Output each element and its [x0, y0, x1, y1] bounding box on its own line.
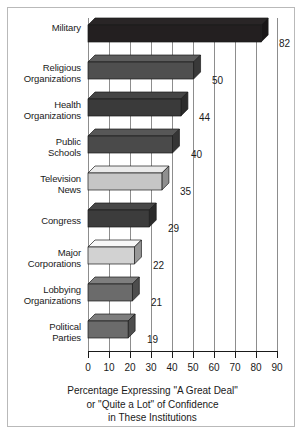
category-label-congress: Congress — [41, 215, 81, 226]
bar-front-face — [88, 99, 181, 116]
x-axis-tick — [193, 352, 194, 358]
value-label-public-schools: 40 — [191, 150, 202, 160]
bar-3d — [88, 18, 268, 42]
value-label-health: 44 — [199, 113, 210, 123]
x-axis-tick — [214, 352, 215, 358]
bar-3d — [88, 55, 201, 79]
category-label-political-parties: Political Parties — [49, 321, 81, 343]
value-label-television-news: 35 — [180, 187, 191, 197]
bar-top-face — [88, 55, 201, 62]
x-axis-tick — [277, 352, 278, 358]
bar-front-face — [88, 136, 172, 153]
x-tick-label-10: 10 — [99, 363, 119, 373]
bar-top-face — [88, 240, 141, 247]
chart-figure: Military Religious Organizations Health … — [0, 0, 305, 441]
category-label-public-schools: Public Schools — [48, 136, 81, 158]
category-label-military: Military — [52, 22, 81, 33]
x-tick-label-70: 70 — [225, 363, 245, 373]
x-tick-label-40: 40 — [162, 363, 182, 373]
x-axis-title: Percentage Expressing "A Great Deal" or … — [7, 384, 298, 425]
bar-3d — [88, 240, 141, 264]
bar-top-face — [88, 129, 179, 136]
bar-front-face — [88, 247, 134, 264]
bar-top-face — [88, 18, 268, 25]
x-tick-label-90: 90 — [267, 363, 287, 373]
bar-3d — [88, 92, 188, 116]
category-label-major-corporations: Major Corporations — [28, 247, 81, 269]
bar-top-face — [88, 203, 156, 210]
x-axis-tick — [151, 352, 152, 358]
x-tick-label-30: 30 — [141, 363, 161, 373]
bar-top-face — [88, 92, 188, 99]
x-tick-label-20: 20 — [120, 363, 140, 373]
value-label-lobbying: 21 — [151, 298, 162, 308]
category-label-lobbying: Lobbying Organizations — [24, 284, 81, 306]
bar-3d — [88, 277, 139, 301]
category-label-health: Health Organizations — [24, 99, 81, 121]
x-axis-tick — [88, 352, 89, 358]
x-tick-label-0: 0 — [78, 363, 98, 373]
value-label-military: 82 — [279, 39, 290, 49]
bar-top-face — [88, 166, 169, 173]
value-label-political-parties: 19 — [147, 335, 158, 345]
bar-top-face — [88, 277, 139, 284]
plot-area: Military Religious Organizations Health … — [0, 0, 305, 441]
x-axis-tick — [256, 352, 257, 358]
value-label-religious: 50 — [212, 76, 223, 86]
category-label-religious: Religious Organizations — [24, 62, 81, 84]
bar-3d — [88, 203, 156, 227]
bar-front-face — [88, 25, 261, 42]
x-axis-tick — [130, 352, 131, 358]
bar-3d — [88, 314, 135, 338]
bar-front-face — [88, 173, 162, 190]
value-label-congress: 29 — [168, 224, 179, 234]
bar-3d — [88, 166, 169, 190]
bar-top-face — [88, 314, 135, 321]
x-tick-label-50: 50 — [183, 363, 203, 373]
bar-front-face — [88, 321, 128, 338]
x-axis-tick — [109, 352, 110, 358]
x-axis-tick — [172, 352, 173, 358]
value-label-major-corporations: 22 — [153, 261, 164, 271]
bar-front-face — [88, 284, 132, 301]
bar-3d — [88, 129, 179, 153]
x-tick-label-60: 60 — [204, 363, 224, 373]
x-axis-tick — [235, 352, 236, 358]
x-axis-line — [88, 351, 278, 352]
x-tick-label-80: 80 — [246, 363, 266, 373]
bar-front-face — [88, 62, 194, 79]
category-label-television-news: Television News — [40, 173, 81, 195]
bar-front-face — [88, 210, 149, 227]
